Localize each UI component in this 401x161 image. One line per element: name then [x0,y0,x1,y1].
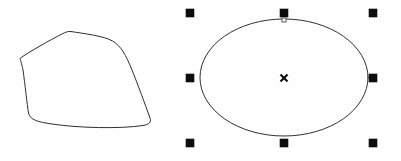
selection-handle-middle-left[interactable] [186,74,194,82]
vector-surface[interactable] [0,0,401,161]
selection-handle-top-left[interactable] [186,9,194,17]
selection-handle-top-right[interactable] [369,9,377,17]
node-marker-top-icon[interactable] [282,18,286,22]
drawing-canvas[interactable] [0,0,401,161]
selection-handle-bottom-center[interactable] [280,139,288,147]
selection-handle-top-center[interactable] [280,9,288,17]
freeform-blob-shape[interactable] [20,31,150,127]
selection-handle-bottom-left[interactable] [186,139,194,147]
rotation-center-marker-icon[interactable] [281,75,288,82]
selection-handle-middle-right[interactable] [369,74,377,82]
selection-handle-bottom-right[interactable] [369,139,377,147]
